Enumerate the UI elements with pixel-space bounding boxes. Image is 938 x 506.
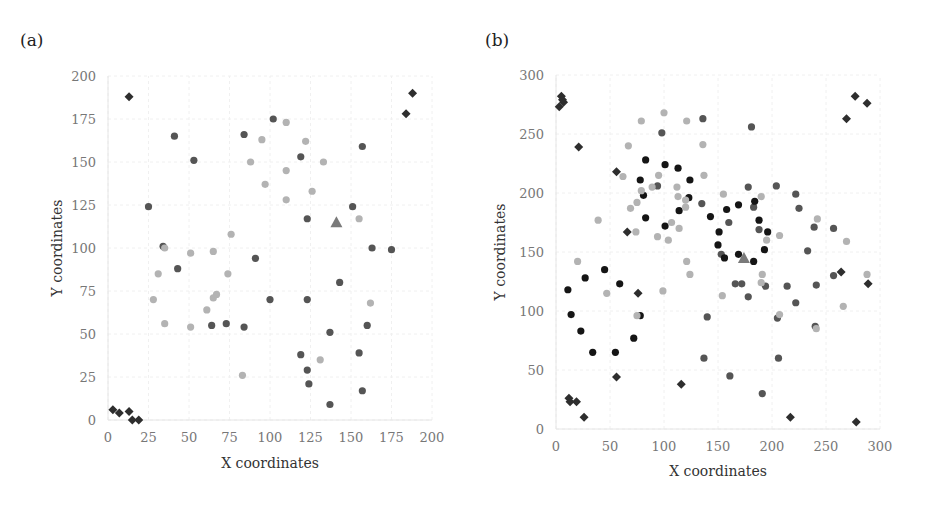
data-point-circle bbox=[792, 299, 799, 306]
data-point-circle bbox=[642, 214, 649, 221]
data-point-circle bbox=[725, 219, 732, 226]
x-tick-label: 50 bbox=[602, 439, 619, 454]
data-point-circle bbox=[714, 241, 721, 248]
data-point-circle bbox=[776, 232, 783, 239]
data-point-circle bbox=[735, 201, 742, 208]
data-point-circle bbox=[676, 207, 683, 214]
data-point-circle bbox=[763, 237, 770, 244]
y-tick-label: 50 bbox=[527, 363, 544, 378]
data-point-circle bbox=[698, 200, 705, 207]
data-point-circle bbox=[589, 349, 596, 356]
data-point-circle bbox=[601, 266, 608, 273]
data-point-circle bbox=[676, 225, 683, 232]
data-point-circle bbox=[830, 272, 837, 279]
data-point-circle bbox=[683, 258, 690, 265]
data-point-circle bbox=[616, 280, 623, 287]
data-point-circle bbox=[674, 165, 681, 172]
x-axis-title: X coordinates bbox=[669, 463, 767, 479]
data-point-diamond bbox=[574, 142, 583, 151]
x-tick-label: 150 bbox=[706, 439, 731, 454]
data-point-circle bbox=[814, 215, 821, 222]
x-tick-label: 100 bbox=[652, 439, 677, 454]
data-point-circle bbox=[658, 129, 665, 136]
series-light bbox=[574, 109, 871, 332]
data-point-circle bbox=[745, 184, 752, 191]
data-point-circle bbox=[683, 117, 690, 124]
series-diamond bbox=[555, 92, 873, 427]
chart-b-grid bbox=[556, 75, 880, 429]
data-point-circle bbox=[568, 311, 575, 318]
x-tick-label: 250 bbox=[814, 439, 839, 454]
data-point-circle bbox=[649, 184, 656, 191]
data-point-circle bbox=[723, 206, 730, 213]
data-point-circle bbox=[759, 390, 766, 397]
data-point-circle bbox=[673, 184, 680, 191]
data-point-circle bbox=[637, 176, 644, 183]
data-point-diamond bbox=[580, 413, 589, 422]
data-point-circle bbox=[564, 286, 571, 293]
data-point-diamond bbox=[837, 268, 846, 277]
data-point-circle bbox=[863, 271, 870, 278]
data-point-circle bbox=[603, 290, 610, 297]
scatter-chart-b: 050100150200250300050100150200250300X co… bbox=[0, 0, 938, 506]
data-point-circle bbox=[811, 224, 818, 231]
data-point-circle bbox=[582, 274, 589, 281]
data-point-circle bbox=[840, 303, 847, 310]
data-point-diamond bbox=[623, 227, 632, 236]
data-point-circle bbox=[682, 196, 689, 203]
data-point-circle bbox=[773, 182, 780, 189]
data-point-circle bbox=[804, 247, 811, 254]
data-point-diamond bbox=[612, 373, 621, 382]
data-point-circle bbox=[755, 226, 762, 233]
data-point-circle bbox=[655, 172, 662, 179]
data-point-circle bbox=[715, 228, 722, 235]
data-point-circle bbox=[595, 217, 602, 224]
data-point-circle bbox=[720, 191, 727, 198]
data-point-circle bbox=[813, 281, 820, 288]
data-point-circle bbox=[764, 228, 771, 235]
series-dark bbox=[564, 156, 771, 356]
data-point-circle bbox=[682, 204, 689, 211]
data-point-circle bbox=[633, 312, 640, 319]
data-point-circle bbox=[758, 193, 765, 200]
data-point-circle bbox=[633, 199, 640, 206]
data-point-circle bbox=[759, 271, 766, 278]
data-point-circle bbox=[659, 287, 666, 294]
data-point-diamond bbox=[852, 417, 861, 426]
data-point-circle bbox=[660, 109, 667, 116]
data-point-circle bbox=[630, 335, 637, 342]
data-point-circle bbox=[748, 123, 755, 130]
data-point-circle bbox=[574, 258, 581, 265]
data-point-circle bbox=[686, 176, 693, 183]
data-point-circle bbox=[619, 173, 626, 180]
data-point-circle bbox=[699, 115, 706, 122]
data-point-circle bbox=[632, 228, 639, 235]
data-point-circle bbox=[654, 233, 661, 240]
data-point-circle bbox=[642, 156, 649, 163]
data-point-circle bbox=[775, 355, 782, 362]
data-point-circle bbox=[792, 191, 799, 198]
data-point-diamond bbox=[851, 92, 860, 101]
data-point-circle bbox=[735, 251, 742, 258]
data-point-circle bbox=[700, 172, 707, 179]
data-point-circle bbox=[577, 327, 584, 334]
data-point-diamond bbox=[677, 380, 686, 389]
data-point-circle bbox=[795, 205, 802, 212]
data-point-diamond bbox=[572, 397, 581, 406]
data-point-circle bbox=[750, 258, 757, 265]
data-point-circle bbox=[776, 311, 783, 318]
data-point-circle bbox=[612, 349, 619, 356]
data-point-circle bbox=[661, 161, 668, 168]
data-point-circle bbox=[627, 205, 634, 212]
data-point-circle bbox=[661, 222, 668, 229]
data-point-circle bbox=[665, 237, 672, 244]
y-tick-label: 200 bbox=[519, 186, 544, 201]
x-tick-label: 300 bbox=[868, 439, 893, 454]
data-point-circle bbox=[704, 313, 711, 320]
y-axis-title: Y coordinates bbox=[492, 204, 508, 302]
x-tick-label: 0 bbox=[552, 439, 560, 454]
data-point-circle bbox=[638, 117, 645, 124]
data-point-circle bbox=[700, 355, 707, 362]
data-point-diamond bbox=[634, 289, 643, 298]
data-point-circle bbox=[784, 283, 791, 290]
